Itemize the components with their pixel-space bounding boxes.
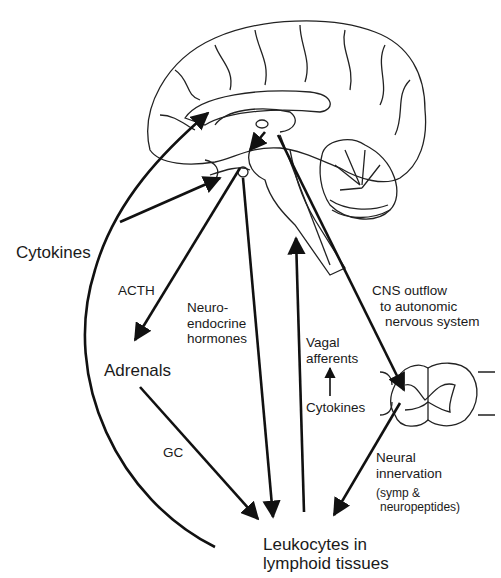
label-neuroendocrine: Neuro- endocrine hormones: [187, 300, 247, 347]
label-line: Leukocytes in: [263, 535, 389, 554]
label-line: Vagal: [306, 335, 358, 351]
arrow-hypothalamus-pituitary: [250, 132, 265, 150]
brain-illustration: [148, 21, 426, 275]
label-gc: GC: [163, 445, 183, 461]
label-adrenals: Adrenals: [104, 361, 171, 381]
label-line: hormones: [187, 331, 247, 347]
label-line: innervation: [376, 466, 442, 482]
label-line: Neural: [376, 450, 442, 466]
arrow-gc: [140, 387, 258, 519]
label-neural-innervation: Neural innervation: [376, 450, 442, 481]
label-line: Neuro-: [187, 300, 247, 316]
arrow-cytokines-to-hypothalamus: [120, 178, 220, 222]
label-line: afferents: [306, 351, 358, 367]
label-vagal-afferents: Vagal afferents: [306, 335, 358, 366]
label-line: nervous system: [372, 314, 480, 330]
spinal-cord-illustration: [380, 363, 495, 426]
label-line: (symp &: [376, 487, 460, 501]
label-line: endocrine: [187, 316, 247, 332]
arrow-neuroendocrine: [243, 178, 273, 517]
label-line: CNS outflow: [372, 283, 480, 299]
label-leukocytes: Leukocytes in lymphoid tissues: [263, 535, 389, 573]
arrow-vagal-afferents: [296, 238, 304, 512]
label-cns-outflow: CNS outflow to autonomic nervous system: [372, 283, 480, 330]
label-line: neuropeptides): [376, 501, 460, 515]
label-line: to autonomic: [372, 299, 480, 315]
label-acth: ACTH: [118, 283, 155, 299]
label-cytokines-center: Cytokines: [306, 400, 365, 416]
label-line: lymphoid tissues: [263, 554, 389, 573]
label-cytokines-left: Cytokines: [16, 243, 91, 263]
label-neural-detail: (symp & neuropeptides): [376, 487, 460, 515]
